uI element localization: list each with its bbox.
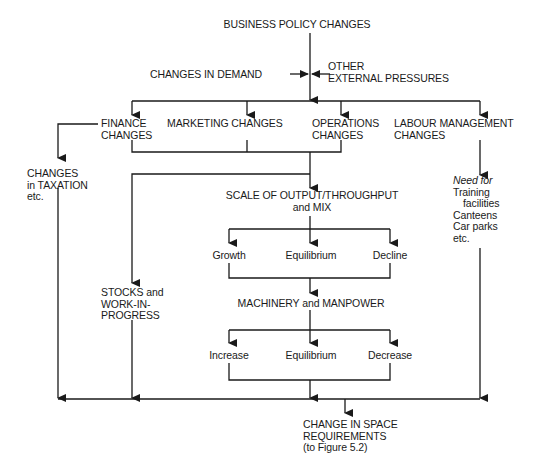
operations-line-2: CHANGES bbox=[312, 130, 379, 142]
node-finance-changes: FINANCE CHANGES bbox=[101, 118, 152, 141]
node-decline: Decline bbox=[373, 250, 407, 262]
scale-line-1: SCALE OF OUTPUT/THROUGHPUT bbox=[226, 190, 398, 202]
node-scale-of-output: SCALE OF OUTPUT/THROUGHPUT and MIX bbox=[226, 190, 398, 213]
node-increase: Increase bbox=[209, 350, 248, 362]
external-line-2: EXTERNAL PRESSURES bbox=[328, 73, 449, 85]
taxation-line-1: CHANGES bbox=[27, 168, 88, 180]
external-line-1: OTHER bbox=[328, 61, 449, 73]
node-decrease: Decrease bbox=[368, 350, 412, 362]
stocks-line-3: PROGRESS bbox=[101, 310, 163, 322]
node-operations-changes: OPERATIONS CHANGES bbox=[312, 118, 379, 141]
node-changes-in-taxation: CHANGES in TAXATION etc. bbox=[27, 168, 88, 203]
node-growth: Growth bbox=[212, 250, 245, 262]
title-business-policy-changes: BUSINESS POLICY CHANGES bbox=[224, 19, 371, 31]
operations-line-1: OPERATIONS bbox=[312, 118, 379, 130]
node-labour-management-changes: LABOUR MANAGEMENT CHANGES bbox=[394, 118, 514, 141]
node-marketing-changes: MARKETING CHANGES bbox=[167, 118, 283, 130]
node-equilibrium-scale: Equilibrium bbox=[286, 250, 337, 262]
node-change-in-space-requirements: CHANGE IN SPACE REQUIREMENTS (to Figure … bbox=[303, 419, 398, 454]
node-machinery-manpower: MACHINERY and MANPOWER bbox=[238, 298, 385, 310]
needs-heading: Need for bbox=[453, 175, 499, 187]
node-labour-needs: Need for Training facilities Canteens Ca… bbox=[453, 175, 499, 244]
finance-line-2: CHANGES bbox=[101, 130, 152, 142]
labour-line-1: LABOUR MANAGEMENT bbox=[394, 118, 514, 130]
needs-item: Car parks bbox=[453, 221, 499, 233]
input-changes-in-demand: CHANGES IN DEMAND bbox=[150, 69, 262, 81]
needs-item: facilities bbox=[453, 198, 499, 210]
node-equilibrium-machinery: Equilibrium bbox=[286, 350, 337, 362]
input-other-external-pressures: OTHER EXTERNAL PRESSURES bbox=[328, 61, 449, 84]
scale-line-2: and MIX bbox=[226, 202, 398, 214]
labour-line-2: CHANGES bbox=[394, 130, 514, 142]
needs-item: etc. bbox=[453, 233, 499, 245]
result-line-3: (to Figure 5.2) bbox=[303, 442, 398, 454]
finance-line-1: FINANCE bbox=[101, 118, 152, 130]
taxation-line-3: etc. bbox=[27, 191, 88, 203]
node-stocks-wip: STOCKS and WORK-IN- PROGRESS bbox=[101, 287, 163, 322]
result-line-1: CHANGE IN SPACE bbox=[303, 419, 398, 431]
stocks-line-1: STOCKS and bbox=[101, 287, 163, 299]
